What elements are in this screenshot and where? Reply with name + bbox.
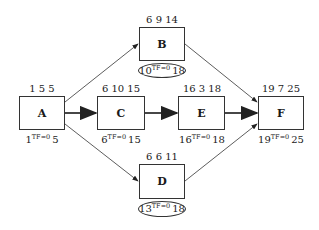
node-e-bottom-label: 16TF=018 bbox=[179, 133, 225, 145]
node-c-tf: TF=0 bbox=[108, 133, 126, 141]
node-a-tf: TF=0 bbox=[32, 133, 50, 141]
node-e-lf: 18 bbox=[212, 134, 225, 145]
node-e[interactable]: E bbox=[178, 96, 225, 130]
node-f-label: F bbox=[277, 107, 285, 120]
node-f-top-label: 19 7 25 bbox=[262, 83, 300, 94]
node-d-bottom-label: 13TF=018 bbox=[139, 202, 185, 214]
node-d-es: 13 bbox=[139, 203, 152, 214]
node-e-top-label: 16 3 18 bbox=[183, 83, 221, 94]
node-b-bottom-label: 10TF=018 bbox=[139, 64, 185, 76]
node-c-label: C bbox=[117, 107, 126, 120]
node-e-tf: TF=0 bbox=[192, 133, 210, 141]
node-c-bottom-label: 6TF=015 bbox=[101, 133, 141, 145]
node-b-es: 10 bbox=[139, 65, 152, 76]
node-e-es: 16 bbox=[179, 134, 192, 145]
node-f-lf: 25 bbox=[291, 134, 304, 145]
node-a-label: A bbox=[38, 107, 47, 120]
node-a[interactable]: A bbox=[19, 96, 65, 130]
node-b-label: B bbox=[157, 38, 166, 51]
node-d-label: D bbox=[157, 175, 167, 188]
node-d[interactable]: D bbox=[139, 164, 185, 199]
node-f-tf: TF=0 bbox=[271, 133, 289, 141]
node-a-bottom-label: 1TF=05 bbox=[25, 133, 58, 145]
node-b-lf: 18 bbox=[172, 65, 185, 76]
node-a-top-label: 1 5 5 bbox=[29, 83, 54, 94]
node-f-es: 19 bbox=[258, 134, 271, 145]
node-d-tf: TF=0 bbox=[152, 202, 170, 210]
node-c[interactable]: C bbox=[97, 96, 145, 130]
node-b[interactable]: B bbox=[139, 27, 185, 61]
node-b-top-label: 6 9 14 bbox=[146, 14, 178, 25]
node-c-lf: 15 bbox=[128, 134, 141, 145]
node-d-lf: 18 bbox=[172, 203, 185, 214]
node-e-label: E bbox=[197, 107, 205, 120]
node-a-lf: 5 bbox=[52, 134, 58, 145]
node-d-top-label: 6 6 11 bbox=[146, 151, 178, 162]
node-b-tf: TF=0 bbox=[152, 64, 170, 72]
node-f-bottom-label: 19TF=025 bbox=[258, 133, 304, 145]
node-c-top-label: 6 10 15 bbox=[102, 83, 140, 94]
node-f[interactable]: F bbox=[258, 96, 304, 130]
